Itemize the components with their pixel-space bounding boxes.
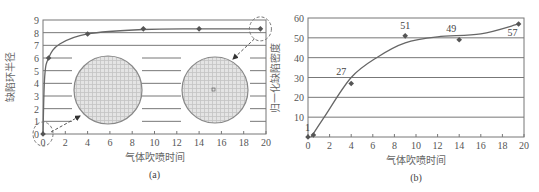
x-tick-label: 2 [327,140,332,151]
data-point-marker [516,21,522,27]
y-tick-label: 5 [34,66,39,77]
x-tick-label: 18 [239,137,249,148]
arrow-to-final-wafer [233,39,254,59]
x-axis-label: 气体吹喷时间 [386,154,446,166]
data-point-marker [46,55,52,61]
x-tick-label: 20 [519,140,529,151]
x-tick-label: 12 [172,137,182,148]
data-point-label: 51 [400,20,410,31]
series-line [311,24,518,137]
x-tick-label: 10 [150,137,160,148]
y-tick-label: 20 [294,92,304,103]
y-tick-label: 1 [34,116,39,127]
data-point-marker [40,131,46,137]
data-point-label: 57 [508,27,518,38]
x-tick-label: 4 [85,137,90,148]
figure-caption: (a) [149,169,160,181]
x-tick-label: 8 [130,137,135,148]
x-tick-label: 2 [63,137,68,148]
x-tick-label: 6 [370,140,375,151]
y-tick-label: 40 [294,53,304,64]
x-tick-label: 0 [306,140,311,151]
x-tick-label: 20 [261,137,271,148]
data-point-label: 49 [446,23,456,34]
x-tick-label: 12 [433,140,443,151]
y-tick-label: 4 [34,78,39,89]
y-tick-label: 7 [34,40,39,51]
x-tick-label: 8 [392,140,397,151]
y-axis-label: 归一化缺陷密度 [269,43,281,113]
y-tick-label: 2 [34,104,39,115]
y-tick-label: 6 [34,53,39,64]
x-tick-label: 16 [476,140,486,151]
x-axis-label: 气体吹喷时间 [125,151,185,163]
chart-a: 012345678902468101214161820气体吹喷时间缺陷环半径(a… [4,15,271,181]
data-point-marker [305,134,311,140]
x-tick-label: 6 [107,137,112,148]
x-tick-label: 18 [497,140,507,151]
arrow-to-initial-wafer [51,116,80,132]
x-tick-label: 4 [349,140,354,151]
y-tick-label: 30 [294,73,304,84]
data-point-label: 1 [305,122,310,133]
data-point-marker [85,31,91,37]
data-point-marker [196,26,202,32]
data-point-marker [258,26,264,32]
data-point-label: 27 [336,66,346,77]
wafer-initial-image [74,56,142,124]
data-point-marker [348,81,354,87]
x-tick-label: 14 [454,140,464,151]
y-axis-label: 缺陷环半径 [4,52,16,102]
x-tick-label: 16 [216,137,226,148]
figure-caption: (b) [410,172,422,184]
y-tick-label: 8 [34,28,39,39]
figure: 012345678902468101214161820气体吹喷时间缺陷环半径(a… [0,0,539,192]
y-tick-label: 0 [34,129,39,140]
chart-b: 10203040506002468101214161820气体吹喷时间归一化缺陷… [269,13,529,184]
y-tick-label: 9 [34,15,39,26]
x-tick-label: 14 [194,137,204,148]
data-point-marker [141,26,147,32]
y-tick-label: 50 [294,33,304,44]
y-tick-label: 60 [294,13,304,24]
y-tick-label: 10 [294,112,304,123]
x-tick-label: 10 [411,140,421,151]
y-tick-label: 3 [34,91,39,102]
